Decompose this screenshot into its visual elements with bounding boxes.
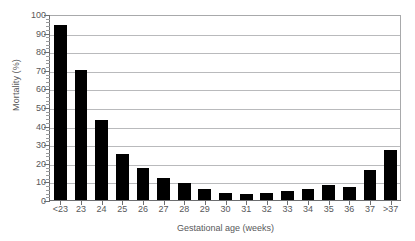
bar xyxy=(322,185,335,200)
x-tick-label: 35 xyxy=(324,205,334,215)
bar xyxy=(364,170,377,200)
bar xyxy=(116,154,129,201)
y-tick-label: 100 xyxy=(20,11,46,20)
x-tick-label: 32 xyxy=(262,205,272,215)
x-tick-label: 31 xyxy=(241,205,251,215)
x-tick-label: 33 xyxy=(282,205,292,215)
bar xyxy=(219,193,232,200)
x-tick-label: 37 xyxy=(365,205,375,215)
y-major-tick xyxy=(44,201,50,202)
bar xyxy=(157,178,170,200)
x-tick-label: 36 xyxy=(344,205,354,215)
y-tick-label: 80 xyxy=(20,48,46,57)
y-tick-label: 0 xyxy=(20,197,46,206)
bar xyxy=(198,189,211,200)
y-tick-label: 20 xyxy=(20,159,46,168)
y-tick-label: 90 xyxy=(20,29,46,38)
x-tick-label: 30 xyxy=(220,205,230,215)
bar xyxy=(260,193,273,200)
bar xyxy=(302,189,315,200)
bar xyxy=(95,120,108,200)
y-tick-label: 10 xyxy=(20,178,46,187)
x-tick-label: 28 xyxy=(179,205,189,215)
bar xyxy=(137,168,150,200)
bar xyxy=(343,187,356,200)
y-tick-label: 70 xyxy=(20,66,46,75)
y-axis-tick-labels: 0102030405060708090100 xyxy=(20,10,46,202)
bar xyxy=(75,70,88,200)
x-tick-label: 29 xyxy=(200,205,210,215)
plot-area xyxy=(50,15,401,201)
bar-series xyxy=(50,16,400,200)
x-tick-label: <23 xyxy=(53,205,68,215)
bar xyxy=(178,183,191,200)
bar xyxy=(281,191,294,200)
x-tick-label: 24 xyxy=(97,205,107,215)
x-tick-label: 23 xyxy=(76,205,86,215)
y-tick-label: 40 xyxy=(20,122,46,131)
x-axis-title: Gestational age (weeks) xyxy=(50,223,401,233)
mortality-by-gestational-age-chart: Mortality (%) 0102030405060708090100 <23… xyxy=(0,0,415,241)
y-tick-label: 50 xyxy=(20,104,46,113)
x-tick-label: 26 xyxy=(138,205,148,215)
bar xyxy=(54,25,67,200)
bar xyxy=(384,150,397,200)
x-tick-label: 27 xyxy=(159,205,169,215)
x-tick-label: 25 xyxy=(117,205,127,215)
y-tick-label: 30 xyxy=(20,141,46,150)
x-tick-label: >37 xyxy=(383,205,398,215)
x-tick-label: 34 xyxy=(303,205,313,215)
y-tick-label: 60 xyxy=(20,85,46,94)
